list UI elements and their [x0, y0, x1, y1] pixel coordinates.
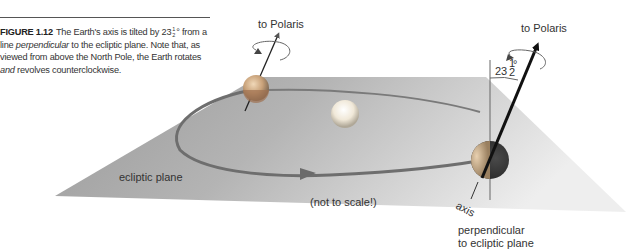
not-to-scale-note: (not to scale!) — [310, 196, 377, 208]
to-polaris-label-right: to Polaris — [521, 22, 567, 34]
left-rotation-arrowhead-icon — [254, 48, 262, 54]
tilt-angle-degree: ° — [513, 58, 517, 70]
ecliptic-plane-label: ecliptic plane — [119, 171, 183, 183]
perpendicular-label-line2: to ecliptic plane — [458, 237, 534, 249]
perpendicular-label-line1: perpendicular — [458, 224, 525, 236]
to-polaris-label-left: to Polaris — [258, 18, 304, 30]
earth-orbit-diagram: to Polaris to Polaris 23 1 2 ° ecliptic … — [0, 0, 626, 252]
ecliptic-plane — [55, 77, 626, 212]
sun — [331, 100, 359, 128]
tilt-angle-whole: 23 — [495, 65, 507, 77]
